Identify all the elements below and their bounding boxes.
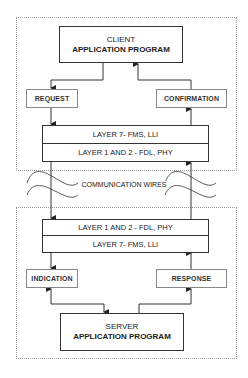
server-protocol-stack: LAYER 1 AND 2 - FDL, PHY LAYER 7- FMS, L… [42, 219, 209, 253]
server-layer-7: LAYER 7- FMS, LLI [43, 236, 208, 252]
client-layer-7: LAYER 7- FMS, LLI [43, 126, 208, 144]
communication-wires-label: COMMUNICATION WIRES [80, 181, 167, 188]
client-title: CLIENT [107, 35, 135, 45]
server-layer-1-2: LAYER 1 AND 2 - FDL, PHY [43, 220, 208, 236]
server-application-program-box: SERVER APPLICATION PROGRAM [60, 313, 184, 351]
server-title: SERVER [106, 322, 139, 332]
server-subtitle: APPLICATION PROGRAM [73, 332, 171, 342]
response-box: RESPONSE [156, 269, 227, 288]
client-layer-1-2: LAYER 1 AND 2 - FDL, PHY [43, 144, 208, 162]
indication-box: INDICATION [26, 269, 78, 288]
client-subtitle: APPLICATION PROGRAM [72, 45, 170, 55]
request-box: REQUEST [26, 89, 78, 108]
client-application-program-box: CLIENT APPLICATION PROGRAM [59, 26, 183, 63]
communication-wires-label-container: COMMUNICATION WIRES [0, 181, 248, 188]
confirmation-box: CONFIRMATION [156, 89, 227, 108]
client-protocol-stack: LAYER 7- FMS, LLI LAYER 1 AND 2 - FDL, P… [42, 125, 209, 162]
